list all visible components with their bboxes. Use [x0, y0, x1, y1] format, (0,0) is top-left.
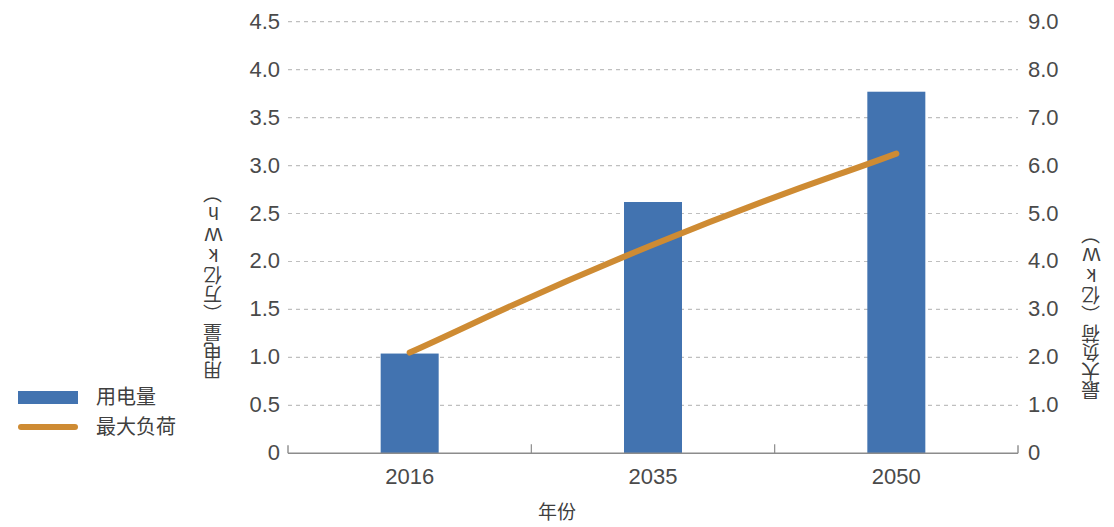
bar	[624, 202, 682, 453]
bar-series	[381, 92, 926, 454]
bar	[867, 92, 925, 454]
dual-axis-chart: 用电量 最大负荷 用电量（万亿kWh） 最大负荷（亿kW） 年份 00.51.0…	[0, 0, 1114, 527]
bar	[381, 354, 439, 454]
plot-area	[0, 0, 1114, 527]
